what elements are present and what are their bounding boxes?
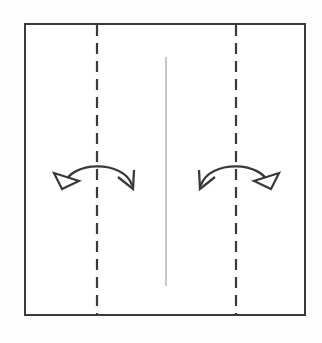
- paper-square: [25, 24, 305, 315]
- origami-diagram-figure: Origami step: fold both side panels in t…: [0, 0, 322, 343]
- origami-diagram-canvas: Origami step: fold both side panels in t…: [0, 0, 322, 343]
